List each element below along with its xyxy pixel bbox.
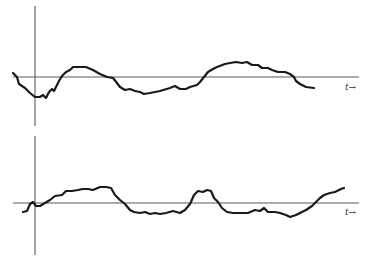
bottom-signal-curve xyxy=(23,187,344,217)
bottom-time-axis-label: t→ xyxy=(345,207,357,217)
top-signal-curve xyxy=(13,62,314,98)
top-plot: t→ xyxy=(13,6,359,126)
bottom-plot: t→ xyxy=(13,136,359,255)
signal-figure: t→ t→ xyxy=(0,0,373,267)
top-time-axis-label: t→ xyxy=(345,82,357,92)
